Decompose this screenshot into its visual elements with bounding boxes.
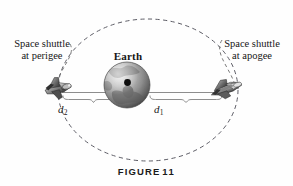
distance-d2-symbol: d — [58, 103, 64, 115]
distance-d2-subscript: 2 — [64, 108, 68, 117]
label-apogee-line2: at apogee — [214, 50, 290, 62]
figure-graphics — [0, 0, 293, 186]
earth-sphere — [103, 62, 150, 108]
distance-d1-subscript: 1 — [160, 108, 164, 117]
figure-caption-number: 11 — [160, 166, 175, 177]
label-perigee-line1: Space shuttle — [6, 38, 78, 50]
brace-d1 — [150, 96, 222, 103]
label-space-shuttle-apogee: Space shuttle at apogee — [214, 38, 290, 62]
figure-caption-word: FIGURE — [118, 166, 161, 177]
label-perigee-line2: at perigee — [6, 50, 78, 62]
shuttle-apogee-icon — [208, 74, 244, 102]
distance-d1-symbol: d — [154, 103, 160, 115]
label-space-shuttle-perigee: Space shuttle at perigee — [6, 38, 78, 62]
figure-caption: FIGURE11 — [0, 166, 293, 177]
label-apogee-line1: Space shuttle — [214, 38, 290, 50]
distance-label-d1: d1 — [154, 103, 163, 115]
shuttle-perigee-icon — [43, 74, 74, 102]
figure-container: Space shuttle at perigee Space shuttle a… — [0, 0, 293, 186]
focus-point-dot — [124, 79, 131, 86]
label-earth: Earth — [103, 50, 153, 62]
distance-label-d2: d2 — [58, 103, 67, 115]
